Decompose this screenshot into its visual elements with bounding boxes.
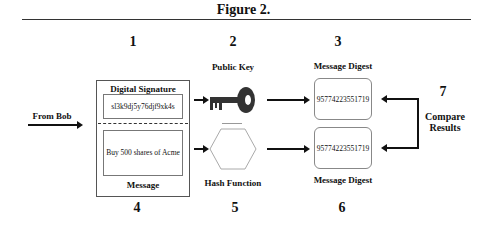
step-number-2: 2	[218, 34, 248, 50]
step-number-4: 4	[122, 200, 152, 216]
title-rule	[22, 19, 471, 20]
hash-function-label: Hash Function	[200, 178, 266, 188]
step-number-3: 3	[323, 34, 353, 50]
from-bob-label: From Bob	[22, 111, 82, 121]
arrow-signature-to-key	[194, 99, 204, 101]
digest-bottom-box: 95774223551719	[314, 127, 372, 169]
arrow-hash-to-digest	[267, 148, 305, 150]
compare-bracket	[417, 98, 419, 149]
hexagon-icon	[208, 128, 258, 170]
digest-top-label: Message Digest	[305, 61, 381, 71]
step-number-6: 6	[327, 200, 357, 216]
from-bob-arrow	[28, 124, 78, 126]
step-number-7: 7	[428, 84, 458, 100]
step-number-5: 5	[220, 200, 250, 216]
signature-value-box: sl3k9dj5y76djf9xk4s	[103, 94, 183, 119]
key-icon	[208, 84, 260, 118]
figure-title: Figure 2.	[0, 2, 487, 18]
arrow-key-to-digest	[267, 99, 305, 101]
divider-dashed	[98, 123, 188, 124]
compare-arrow-top	[386, 98, 419, 100]
key-underline	[222, 123, 242, 124]
arrow-message-to-hash	[194, 148, 204, 150]
compare-line-2: Results	[420, 122, 470, 133]
compare-arrow-bottom	[386, 147, 419, 149]
step-number-1: 1	[118, 34, 148, 50]
digest-bottom-label: Message Digest	[305, 175, 381, 185]
compare-results-label: Compare Results	[420, 111, 470, 133]
digest-top-box: 95774223551719	[314, 78, 372, 120]
public-key-label: Public Key	[200, 62, 266, 72]
compare-line-1: Compare	[420, 111, 470, 122]
message-footer: Message	[96, 180, 190, 190]
message-value-box: Buy 500 shares of Acme	[103, 130, 183, 176]
digital-signature-header: Digital Signature	[96, 84, 190, 94]
